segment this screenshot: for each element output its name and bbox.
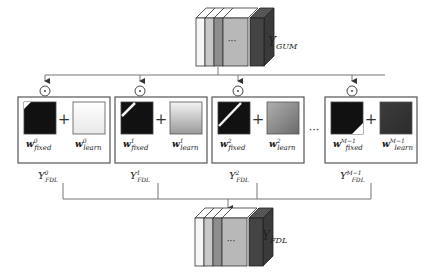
input-feature-stack: ··· (196, 8, 274, 66)
branch-box-3: +wM−1fixedwM−1learn (325, 97, 417, 163)
learnable-filter (380, 102, 412, 134)
collection-lines (63, 183, 371, 208)
branch-output-label: YM−1FDL (340, 169, 365, 183)
hadamard-operator-icon (40, 86, 50, 96)
branch-box-1: +w1fixedw1learn (115, 97, 207, 163)
plus-icon: + (252, 110, 265, 128)
fixed-filter (218, 102, 250, 134)
stack-ellipsis: ··· (228, 36, 237, 46)
hadamard-operator-icon (233, 86, 243, 96)
input-stack-label: YGUM (268, 35, 298, 51)
branch-output-label: Y0FDL (38, 169, 58, 183)
fixed-filter (24, 102, 56, 134)
plus-icon: + (365, 110, 378, 128)
stack-ellipsis: ··· (227, 236, 236, 246)
branch-output-label: Y1FDL (130, 169, 150, 183)
fixed-filter (331, 102, 363, 134)
branch-boxes: +w0fixedw0learnY0FDL+w1fixedw1learnY1FDL… (18, 97, 417, 183)
plus-icon: + (58, 110, 71, 128)
hadamard-operator-icon (135, 86, 145, 96)
branch-box-2: +w2fixedw2learn (212, 97, 304, 163)
branch-output-label: Y2FDL (229, 169, 249, 183)
fixed-filter (121, 102, 153, 134)
learnable-filter (73, 102, 105, 134)
plus-icon: + (155, 110, 168, 128)
branch-box-0: +w0fixedw0learn (18, 97, 110, 163)
branch-ellipsis: ··· (309, 124, 320, 137)
branch-arrows (40, 75, 357, 96)
learnable-filter (267, 102, 299, 134)
output-stack-label: YFDL (262, 229, 287, 245)
hadamard-operator-icon (347, 86, 357, 96)
fdl-diagram: ··· YGUM +w0fixedw0learnY0FDL+w1fixedw1l… (0, 0, 435, 278)
learnable-filter (170, 102, 202, 134)
distribution-lines (45, 67, 385, 75)
